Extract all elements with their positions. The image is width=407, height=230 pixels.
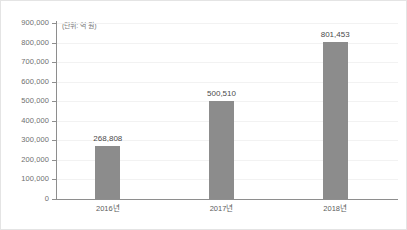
bar <box>209 101 234 199</box>
bar-value-label: 801,453 <box>295 30 375 39</box>
x-axis-category-label: 2017년 <box>182 204 262 214</box>
x-axis-line <box>57 199 398 200</box>
y-axis-tick-label: 700,000 <box>1 58 49 66</box>
y-axis-tick-label: 500,000 <box>1 97 49 105</box>
bar-series: 268,808500,510801,453 <box>57 23 398 199</box>
bar-value-label: 500,510 <box>182 89 262 98</box>
y-axis-tick-label: 200,000 <box>1 156 49 164</box>
bar <box>95 146 120 199</box>
y-axis-tick-label: 300,000 <box>1 136 49 144</box>
y-axis-tick-label: 100,000 <box>1 175 49 183</box>
y-axis-tick-label: 900,000 <box>1 19 49 27</box>
y-axis-tick-label: 600,000 <box>1 78 49 86</box>
bar-value-label: 268,808 <box>68 134 148 143</box>
x-axis-category-label: 2018년 <box>295 204 375 214</box>
bar-chart: (단위: 억 원) 0100,000200,000300,000400,0005… <box>0 0 407 230</box>
y-axis-tick-label: 0 <box>1 195 49 203</box>
y-axis-tick-label: 400,000 <box>1 117 49 125</box>
x-axis-category-label: 2016년 <box>68 204 148 214</box>
bar <box>323 42 348 199</box>
y-axis-tick-label: 800,000 <box>1 39 49 47</box>
